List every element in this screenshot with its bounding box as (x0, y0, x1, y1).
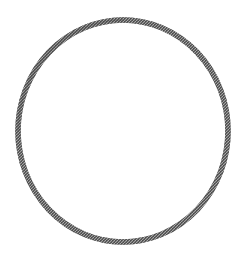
stroke-grain-texture (0, 0, 243, 267)
image-canvas (0, 0, 243, 267)
circle-figure (0, 0, 243, 267)
